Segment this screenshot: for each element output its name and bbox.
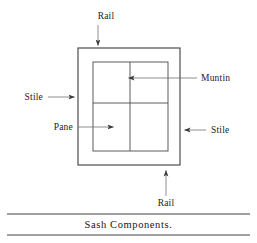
label-rail-top: Rail bbox=[98, 11, 115, 21]
sash-components-diagram: Rail Rail Stile Stile Muntin Pane Sash C… bbox=[0, 0, 257, 243]
label-muntin: Muntin bbox=[201, 73, 230, 83]
label-pane: Pane bbox=[54, 122, 73, 132]
label-stile-right: Stile bbox=[211, 125, 229, 135]
figure-caption: Sash Components. bbox=[85, 219, 173, 230]
glass-opening-rect bbox=[93, 62, 168, 151]
label-rail-bottom: Rail bbox=[158, 198, 175, 208]
label-stile-left: Stile bbox=[25, 92, 43, 102]
figure-page: Rail Rail Stile Stile Muntin Pane Sash C… bbox=[0, 0, 257, 243]
glass-opening bbox=[93, 62, 168, 151]
